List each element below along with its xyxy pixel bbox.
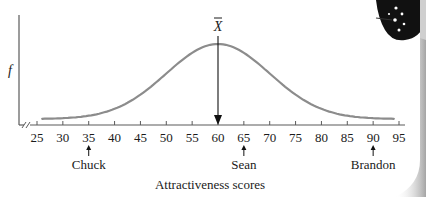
x-tick-label: 90 — [367, 130, 380, 145]
x-tick-label: 85 — [341, 130, 354, 145]
mean-label: X — [213, 19, 223, 34]
mean-arrowhead-icon — [214, 115, 222, 125]
axes: f253035404550556065707580859095Attractiv… — [8, 15, 406, 192]
x-tick-label: 80 — [315, 130, 328, 145]
annotation-layer: XChuckSeanBrandon — [72, 18, 396, 172]
decorative-photo-fragment — [376, 0, 426, 40]
chart-figure: f253035404550556065707580859095Attractiv… — [0, 0, 426, 197]
person-label-brandon: Brandon — [351, 157, 396, 172]
person-marker-arrow-icon — [371, 145, 376, 150]
x-tick-label: 95 — [393, 130, 406, 145]
x-tick-label: 35 — [82, 130, 95, 145]
y-axis-label: f — [8, 63, 14, 78]
x-axis-title: Attractiveness scores — [155, 177, 265, 192]
normal-distribution-chart: f253035404550556065707580859095Attractiv… — [0, 0, 426, 197]
person-marker-arrow-icon — [86, 145, 91, 150]
x-tick-label: 25 — [31, 130, 44, 145]
x-tick-label: 70 — [263, 130, 276, 145]
x-tick-label: 45 — [134, 130, 147, 145]
x-tick-label: 40 — [108, 130, 121, 145]
x-tick-label: 75 — [289, 130, 302, 145]
x-tick-label: 65 — [237, 130, 250, 145]
x-tick-label: 55 — [186, 130, 199, 145]
x-tick-label: 60 — [212, 130, 225, 145]
axis-break-mark — [26, 122, 30, 128]
x-tick-label: 30 — [56, 130, 69, 145]
x-tick-label: 50 — [160, 130, 173, 145]
person-marker-arrow-icon — [241, 145, 246, 150]
person-label-chuck: Chuck — [72, 157, 106, 172]
person-label-sean: Sean — [231, 157, 257, 172]
